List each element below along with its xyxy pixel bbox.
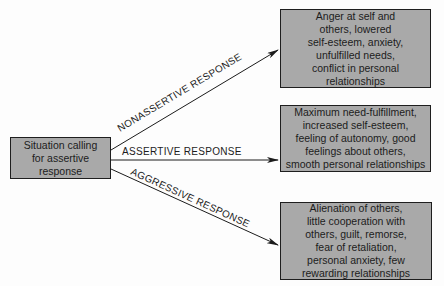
outcome-line: rewarding relationships xyxy=(302,267,410,280)
outcome-line: smooth personal relationships xyxy=(286,158,426,171)
aggressive-label: AGGRESSIVE RESPONSE xyxy=(129,166,252,230)
outcome-line: increased self-esteem, xyxy=(286,119,426,132)
outcome-line: Anger at self and xyxy=(308,10,404,23)
situation-line: Situation calling xyxy=(24,139,98,152)
outcome-line: others, guilt, remorse, xyxy=(302,228,410,241)
outcome-line: conflict in personal xyxy=(308,62,404,75)
aggressive-outcome-box: Alienation of others, little cooperation… xyxy=(280,202,432,280)
outcome-line: self-esteem, anxiety, xyxy=(308,36,404,49)
outcome-line: personal anxiety, few xyxy=(302,254,410,267)
outcome-line: unfulfilled needs, xyxy=(308,49,404,62)
nonassertive-arrow xyxy=(111,50,278,150)
assertive-outcome-box: Maximum need-fulfillment, increased self… xyxy=(280,105,431,172)
situation-line: response xyxy=(24,165,98,178)
situation-line: for assertive xyxy=(24,152,98,165)
outcome-line: feeling of autonomy, good xyxy=(286,132,426,145)
assertive-label: ASSERTIVE RESPONSE xyxy=(122,146,242,157)
outcome-line: Alienation of others, xyxy=(302,202,410,215)
nonassertive-label: NONASSERTIVE RESPONSE xyxy=(115,51,243,134)
situation-box: Situation calling for assertive response xyxy=(10,137,111,179)
outcome-line: feelings about others, xyxy=(286,145,426,158)
nonassertive-outcome-box: Anger at self and others, lowered self-e… xyxy=(280,9,431,88)
outcome-line: fear of retaliation, xyxy=(302,241,410,254)
outcome-line: Maximum need-fulfillment, xyxy=(286,106,426,119)
assertiveness-diagram: NONASSERTIVE RESPONSE ASSERTIVE RESPONSE… xyxy=(0,0,444,286)
aggressive-arrow xyxy=(111,169,278,245)
outcome-line: little cooperation with xyxy=(302,215,410,228)
outcome-line: relationships xyxy=(308,75,404,88)
outcome-line: others, lowered xyxy=(308,23,404,36)
